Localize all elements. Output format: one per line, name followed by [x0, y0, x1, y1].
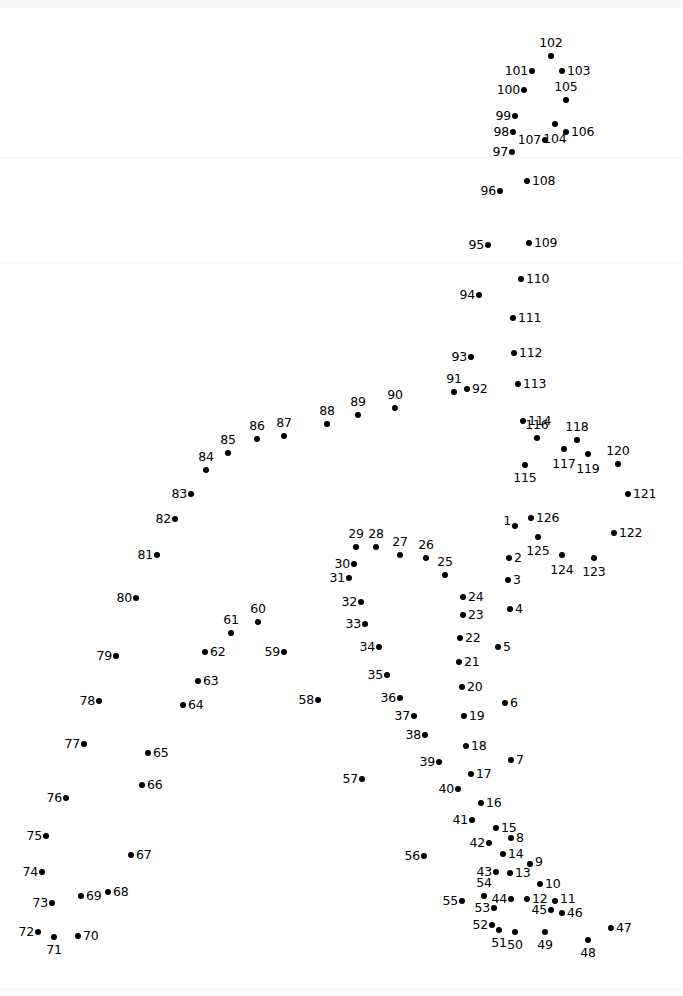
puzzle-dot-33[interactable]: [362, 621, 368, 627]
puzzle-dot-118[interactable]: [574, 437, 580, 443]
puzzle-dot-28[interactable]: [373, 544, 379, 550]
puzzle-dot-17[interactable]: [468, 771, 474, 777]
puzzle-dot-89[interactable]: [355, 412, 361, 418]
puzzle-dot-116[interactable]: [534, 435, 540, 441]
puzzle-dot-24[interactable]: [460, 594, 466, 600]
puzzle-dot-54[interactable]: [481, 893, 487, 899]
puzzle-dot-91[interactable]: [451, 389, 457, 395]
puzzle-dot-90[interactable]: [392, 405, 398, 411]
puzzle-dot-73[interactable]: [49, 900, 55, 906]
puzzle-dot-16[interactable]: [478, 800, 484, 806]
puzzle-dot-22[interactable]: [457, 635, 463, 641]
puzzle-dot-123[interactable]: [591, 555, 597, 561]
puzzle-dot-103[interactable]: [559, 68, 565, 74]
puzzle-dot-51[interactable]: [496, 927, 502, 933]
puzzle-dot-67[interactable]: [128, 852, 134, 858]
puzzle-dot-5[interactable]: [495, 644, 501, 650]
puzzle-dot-26[interactable]: [423, 555, 429, 561]
puzzle-dot-47[interactable]: [608, 925, 614, 931]
puzzle-dot-53[interactable]: [491, 905, 497, 911]
puzzle-dot-56[interactable]: [421, 853, 427, 859]
puzzle-dot-2[interactable]: [506, 555, 512, 561]
puzzle-dot-7[interactable]: [508, 757, 514, 763]
puzzle-dot-3[interactable]: [505, 577, 511, 583]
puzzle-dot-45[interactable]: [548, 907, 554, 913]
puzzle-dot-94[interactable]: [476, 292, 482, 298]
puzzle-dot-100[interactable]: [521, 87, 527, 93]
puzzle-dot-14[interactable]: [500, 851, 506, 857]
puzzle-dot-1[interactable]: [512, 523, 518, 529]
puzzle-dot-49[interactable]: [542, 929, 548, 935]
puzzle-dot-125[interactable]: [535, 534, 541, 540]
puzzle-dot-11[interactable]: [552, 898, 558, 904]
puzzle-dot-119[interactable]: [585, 451, 591, 457]
puzzle-dot-74[interactable]: [39, 869, 45, 875]
puzzle-dot-12[interactable]: [524, 896, 530, 902]
puzzle-dot-61[interactable]: [228, 630, 234, 636]
puzzle-dot-93[interactable]: [468, 354, 474, 360]
puzzle-dot-59[interactable]: [281, 649, 287, 655]
puzzle-dot-99[interactable]: [512, 113, 518, 119]
puzzle-dot-106[interactable]: [563, 129, 569, 135]
puzzle-dot-39[interactable]: [436, 759, 442, 765]
puzzle-dot-71[interactable]: [51, 934, 57, 940]
puzzle-dot-50[interactable]: [512, 929, 518, 935]
puzzle-dot-95[interactable]: [485, 242, 491, 248]
puzzle-dot-92[interactable]: [464, 386, 470, 392]
puzzle-dot-120[interactable]: [615, 461, 621, 467]
puzzle-dot-80[interactable]: [133, 595, 139, 601]
puzzle-dot-87[interactable]: [281, 433, 287, 439]
puzzle-dot-82[interactable]: [172, 516, 178, 522]
puzzle-dot-79[interactable]: [113, 653, 119, 659]
puzzle-dot-57[interactable]: [359, 776, 365, 782]
puzzle-dot-29[interactable]: [353, 544, 359, 550]
puzzle-dot-110[interactable]: [518, 276, 524, 282]
puzzle-dot-121[interactable]: [625, 491, 631, 497]
puzzle-dot-126[interactable]: [528, 515, 534, 521]
puzzle-dot-6[interactable]: [502, 700, 508, 706]
puzzle-dot-65[interactable]: [145, 750, 151, 756]
puzzle-dot-41[interactable]: [469, 817, 475, 823]
puzzle-dot-104[interactable]: [552, 121, 558, 127]
puzzle-dot-124[interactable]: [559, 552, 565, 558]
puzzle-dot-21[interactable]: [456, 659, 462, 665]
puzzle-dot-78[interactable]: [96, 698, 102, 704]
puzzle-dot-38[interactable]: [422, 732, 428, 738]
puzzle-dot-8[interactable]: [508, 835, 514, 841]
puzzle-dot-85[interactable]: [225, 450, 231, 456]
puzzle-dot-102[interactable]: [548, 53, 554, 59]
puzzle-dot-13[interactable]: [507, 870, 513, 876]
puzzle-dot-48[interactable]: [585, 937, 591, 943]
puzzle-dot-97[interactable]: [509, 149, 515, 155]
puzzle-dot-117[interactable]: [561, 446, 567, 452]
puzzle-dot-72[interactable]: [35, 929, 41, 935]
puzzle-dot-69[interactable]: [78, 893, 84, 899]
puzzle-dot-44[interactable]: [508, 896, 514, 902]
puzzle-dot-52[interactable]: [489, 922, 495, 928]
puzzle-dot-77[interactable]: [81, 741, 87, 747]
puzzle-dot-76[interactable]: [63, 795, 69, 801]
puzzle-dot-62[interactable]: [202, 649, 208, 655]
puzzle-dot-75[interactable]: [43, 833, 49, 839]
puzzle-dot-63[interactable]: [195, 678, 201, 684]
puzzle-dot-83[interactable]: [188, 491, 194, 497]
puzzle-dot-37[interactable]: [411, 713, 417, 719]
puzzle-dot-35[interactable]: [384, 672, 390, 678]
puzzle-dot-108[interactable]: [524, 178, 530, 184]
puzzle-dot-43[interactable]: [493, 869, 499, 875]
puzzle-dot-36[interactable]: [397, 695, 403, 701]
puzzle-dot-64[interactable]: [180, 702, 186, 708]
puzzle-dot-81[interactable]: [154, 552, 160, 558]
puzzle-dot-20[interactable]: [459, 684, 465, 690]
puzzle-dot-18[interactable]: [463, 743, 469, 749]
puzzle-dot-27[interactable]: [397, 552, 403, 558]
puzzle-dot-32[interactable]: [358, 599, 364, 605]
puzzle-dot-19[interactable]: [461, 713, 467, 719]
puzzle-dot-84[interactable]: [203, 467, 209, 473]
puzzle-dot-113[interactable]: [515, 381, 521, 387]
puzzle-dot-96[interactable]: [497, 188, 503, 194]
puzzle-dot-34[interactable]: [376, 644, 382, 650]
puzzle-dot-58[interactable]: [315, 697, 321, 703]
puzzle-dot-101[interactable]: [529, 68, 535, 74]
puzzle-dot-88[interactable]: [324, 421, 330, 427]
